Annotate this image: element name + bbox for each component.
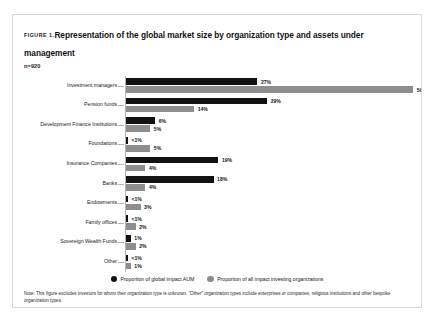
category-label: Insurance Companies [13,161,117,167]
category-label: Banks [13,181,117,187]
bar-aum: <1% [126,137,128,144]
bar-row: Pension funds29%14% [13,95,421,115]
bar-organizations: 4% [126,184,145,191]
bar-group: 18%4% [126,174,419,194]
bar-aum: <1% [126,255,128,262]
bar-organizations: 4% [126,165,145,172]
chart-plot-area: Investment managers27%59%Pension funds29… [13,76,421,272]
bar-organizations: 2% [126,243,136,250]
bar-value-label: 2% [139,224,146,230]
bar-organizations: 59% [126,86,413,93]
bar-fill [126,263,131,270]
category-label: Family offices [13,220,117,226]
bar-value-label: 14% [198,106,208,112]
axis-tick [118,86,124,87]
bar-row: Sovereign Wealth Funds1%2% [13,233,421,253]
bar-fill [126,106,194,113]
sample-size-label: n=920 [24,63,410,69]
bar-group: <1%1% [126,252,419,272]
figure-note: Note: This figure excludes investors for… [24,291,410,305]
bar-row: Development Finance Institutions6%5% [13,115,421,135]
bar-row: Insurance Companies19%4% [13,154,421,174]
figure-title-text: Representation of the global market size… [24,30,364,58]
figure-number-label: Figure 1. [24,32,54,38]
legend-item-aum: Proportion of global impact AUM [111,276,195,282]
axis-tick [118,203,124,204]
bar-fill [126,235,131,242]
bar-fill [126,137,128,144]
bar-aum: <1% [126,215,128,222]
bar-fill [126,223,136,230]
bar-row: Family offices<1%2% [13,213,421,233]
legend-item-organizations: Proportion of all impact investing organ… [207,276,323,282]
legend-label-organizations: Proportion of all impact investing organ… [217,276,323,282]
axis-tick [118,144,124,145]
bar-organizations: 5% [126,145,150,152]
figure-footnotes: Note: This figure excludes investors for… [13,291,421,308]
bar-fill [126,184,145,191]
page-title: Figure 1.Representation of the global ma… [24,24,410,60]
category-label: Sovereign Wealth Funds [13,240,117,246]
category-label: Foundations [13,142,117,148]
bar-aum: 19% [126,157,218,164]
bar-row: Foundations<1%5% [13,135,421,155]
axis-tick [118,125,124,126]
bar-aum: 6% [126,117,155,124]
axis-tick [118,184,124,185]
bar-fill [126,196,128,203]
bar-aum: 1% [126,235,131,242]
bar-organizations: 1% [126,263,131,270]
bar-value-label: 18% [217,176,227,182]
bar-value-label: <1% [131,216,141,222]
bar-row: Banks18%4% [13,174,421,194]
bar-group: 1%2% [126,233,419,253]
bar-row: Endowments<1%3% [13,193,421,213]
bar-organizations: 5% [126,125,150,132]
bar-value-label: 29% [271,98,281,104]
bar-fill [126,215,128,222]
bar-rows-container: Investment managers27%59%Pension funds29… [13,76,421,272]
bar-group: 27%59% [126,76,419,96]
bar-value-label: 3% [144,204,151,210]
bar-fill [126,243,136,250]
bar-value-label: 6% [159,118,166,124]
bar-value-label: 1% [134,263,141,269]
bar-value-label: 4% [149,184,156,190]
bar-group: 19%4% [126,154,419,174]
bar-organizations: 14% [126,106,194,113]
legend-dot-icon-organizations [207,276,213,282]
axis-tick [118,164,124,165]
bar-fill [126,176,214,183]
bar-value-label: 5% [154,145,161,151]
bar-fill [126,78,257,85]
axis-tick [118,105,124,106]
bar-group: 6%5% [126,115,419,135]
bar-value-label: <1% [131,196,141,202]
bar-aum: 29% [126,98,267,105]
bar-aum: 27% [126,78,257,85]
legend-label-aum: Proportion of global impact AUM [120,276,194,282]
bar-aum: <1% [126,196,128,203]
bar-fill [126,117,155,124]
figure-header: Figure 1.Representation of the global ma… [13,15,421,69]
chart-legend: Proportion of global impact AUM Proporti… [13,276,421,282]
bar-group: <1%5% [126,135,419,155]
category-label: Development Finance Institutions [13,122,117,128]
category-label: Endowments [13,200,117,206]
bar-fill [126,165,145,172]
bar-fill [126,204,141,211]
category-label: Other [13,259,117,265]
bar-value-label: 4% [149,165,156,171]
category-label: Investment managers [13,83,117,89]
bar-group: 29%14% [126,95,419,115]
bar-aum: 18% [126,176,214,183]
axis-tick [118,262,124,263]
category-label: Pension funds [13,102,117,108]
axis-tick [118,242,124,243]
bar-value-label: 2% [139,243,146,249]
bar-fill [126,125,150,132]
bar-fill [126,255,128,262]
figure-card: Figure 1.Representation of the global ma… [12,14,422,308]
bar-fill [126,86,413,93]
bar-fill [126,145,150,152]
